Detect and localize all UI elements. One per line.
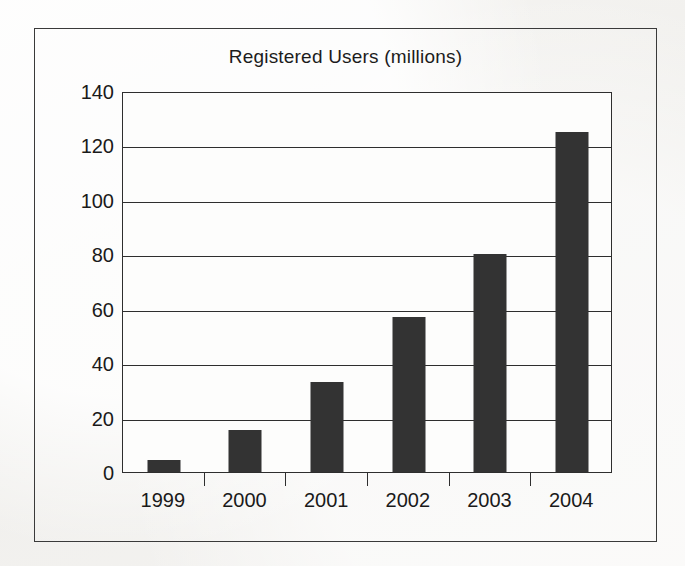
bar-series	[123, 93, 611, 472]
x-axis-tick-mark	[530, 473, 531, 486]
y-axis-tick-label: 100	[81, 189, 114, 212]
y-axis-tick-label: 140	[81, 81, 114, 104]
bar	[311, 382, 344, 472]
x-axis-tick-marks	[122, 473, 612, 487]
x-axis-tick-label: 2000	[222, 489, 267, 512]
bar	[556, 132, 589, 472]
bar-slot	[123, 93, 205, 472]
bar-slot	[531, 93, 613, 472]
x-axis-tick-label: 2002	[386, 489, 431, 512]
bar	[147, 460, 180, 472]
chart-title: Registered Users (millions)	[34, 46, 657, 68]
x-axis-tick-labels: 199920002001200220032004	[122, 489, 612, 519]
x-axis-tick-mark	[204, 473, 205, 486]
y-axis-tick-label: 20	[92, 407, 114, 430]
x-axis-tick-mark	[367, 473, 368, 486]
bar-slot	[450, 93, 532, 472]
y-axis-tick-label: 120	[81, 135, 114, 158]
y-axis-tick-labels: 020406080100120140	[42, 92, 114, 473]
bar-slot	[286, 93, 368, 472]
bar-slot	[368, 93, 450, 472]
y-axis-tick-label: 80	[92, 244, 114, 267]
bar-slot	[205, 93, 287, 472]
bar	[229, 430, 262, 472]
bar	[474, 254, 507, 472]
x-axis-tick-label: 1999	[141, 489, 186, 512]
x-axis-tick-label: 2001	[304, 489, 349, 512]
x-axis-tick-label: 2004	[549, 489, 594, 512]
plot-area	[122, 92, 612, 473]
x-axis-tick-label: 2003	[467, 489, 512, 512]
chart-figure: Registered Users (millions) 020406080100…	[0, 0, 685, 566]
y-axis-tick-label: 0	[103, 462, 114, 485]
bar	[392, 317, 425, 472]
y-axis-tick-label: 40	[92, 353, 114, 376]
y-axis-tick-label: 60	[92, 298, 114, 321]
x-axis-tick-mark	[449, 473, 450, 486]
x-axis-tick-mark	[285, 473, 286, 486]
